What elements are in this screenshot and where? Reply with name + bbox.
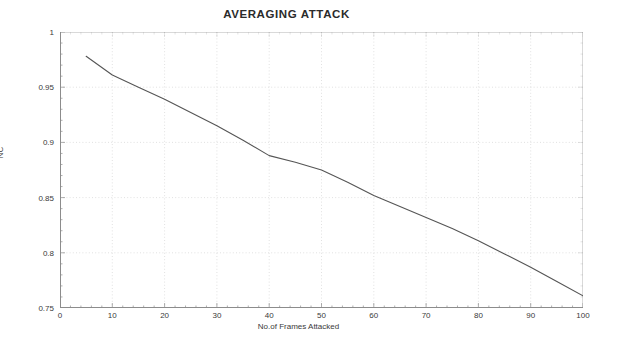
x-axis-label: No.of Frames Attacked	[0, 322, 617, 331]
x-tick-label: 30	[212, 311, 221, 320]
x-tick-label: 50	[317, 311, 326, 320]
x-tick-label: 60	[369, 311, 378, 320]
y-tick-label: 1	[50, 28, 54, 37]
x-axis-label-text: No.of Frames Attacked	[258, 322, 339, 331]
y-axis-label: NC	[0, 147, 5, 159]
y-axis-tick-labels: 0.750.80.850.90.951	[8, 0, 54, 340]
y-tick-label: 0.9	[43, 138, 54, 147]
chart-title-text: AVERAGING ATTACK	[223, 8, 350, 20]
x-tick-label: 100	[576, 311, 589, 320]
y-tick-label: 0.95	[38, 83, 54, 92]
x-tick-label: 0	[58, 311, 62, 320]
x-tick-label: 80	[474, 311, 483, 320]
plot-canvas	[60, 32, 583, 308]
data-series-layer	[86, 56, 583, 296]
chart-figure: AVERAGING ATTACK 0.750.80.850.90.951 NC …	[0, 0, 617, 340]
x-tick-label: 90	[526, 311, 535, 320]
x-tick-label: 20	[160, 311, 169, 320]
data-series-line-0	[86, 56, 583, 296]
y-tick-label: 0.8	[43, 248, 54, 257]
x-tick-label: 70	[422, 311, 431, 320]
y-tick-label: 0.85	[38, 193, 54, 202]
plot-area	[60, 32, 583, 308]
x-tick-label: 10	[108, 311, 117, 320]
x-tick-label: 40	[265, 311, 274, 320]
chart-title: AVERAGING ATTACK	[0, 8, 617, 20]
